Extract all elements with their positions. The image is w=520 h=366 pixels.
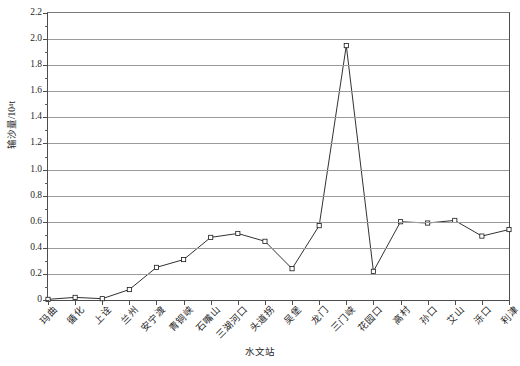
y-axis-tick-mark — [43, 13, 48, 14]
horizontal-gridline — [48, 196, 509, 197]
horizontal-gridline — [48, 274, 509, 275]
horizontal-gridline — [48, 117, 509, 118]
y-axis-tick-labels: 00.20.40.60.81.01.21.41.61.82.02.2 — [14, 0, 42, 366]
data-point-marker — [371, 269, 375, 273]
y-axis-tick-label: 0.4 — [16, 242, 42, 252]
y-axis-minor-tick-mark — [45, 261, 48, 262]
horizontal-gridline — [48, 91, 509, 92]
data-point-marker — [127, 287, 131, 291]
y-axis-minor-tick-mark — [45, 209, 48, 210]
plot-area — [47, 12, 510, 301]
horizontal-gridline — [48, 222, 509, 223]
data-point-marker — [344, 44, 348, 48]
y-axis-tick-label: 2.0 — [16, 33, 42, 43]
data-point-marker — [507, 227, 511, 231]
data-point-marker — [73, 295, 77, 299]
data-point-marker — [209, 235, 213, 239]
horizontal-gridline — [48, 65, 509, 66]
y-axis-minor-tick-mark — [45, 26, 48, 27]
x-axis-tick-mark — [509, 300, 510, 305]
y-axis-minor-tick-mark — [45, 78, 48, 79]
y-axis-minor-tick-mark — [45, 104, 48, 105]
horizontal-gridline — [48, 170, 509, 171]
x-axis-title: 水文站 — [0, 346, 520, 359]
y-axis-tick-label: 0.8 — [16, 190, 42, 200]
data-point-marker — [290, 267, 294, 271]
series-line — [48, 46, 509, 300]
y-axis-tick-label: 1.6 — [16, 85, 42, 95]
y-axis-tick-label: 1.2 — [16, 137, 42, 147]
y-axis-tick-label: 2.2 — [16, 7, 42, 17]
y-axis-minor-tick-mark — [45, 157, 48, 158]
horizontal-gridline — [48, 143, 509, 144]
data-point-marker — [154, 265, 158, 269]
y-axis-minor-tick-mark — [45, 235, 48, 236]
horizontal-gridline — [48, 248, 509, 249]
y-axis-minor-tick-mark — [45, 130, 48, 131]
data-point-marker — [236, 231, 240, 235]
y-axis-tick-label: 0.6 — [16, 216, 42, 226]
sediment-transport-line-chart: 输沙量/10⁴t 00.20.40.60.81.01.21.41.61.82.0… — [0, 0, 520, 366]
data-point-marker — [317, 224, 321, 228]
y-axis-tick-label: 0 — [16, 294, 42, 304]
y-axis-tick-label: 1.0 — [16, 164, 42, 174]
horizontal-gridline — [48, 39, 509, 40]
y-axis-tick-label: 1.8 — [16, 59, 42, 69]
data-point-marker — [181, 257, 185, 261]
y-axis-tick-label: 0.2 — [16, 268, 42, 278]
series-layer — [48, 13, 509, 300]
x-axis-category-labels: 玛曲循化上诠兰州安宁渡青铜峡石嘴山三湖河口头道拐吴堡龙门三门峡花园口高村孙口艾山… — [47, 304, 508, 350]
data-point-marker — [263, 239, 267, 243]
y-axis-minor-tick-mark — [45, 52, 48, 53]
y-axis-minor-tick-mark — [45, 183, 48, 184]
y-axis-tick-label: 1.4 — [16, 111, 42, 121]
data-point-marker — [480, 234, 484, 238]
y-axis-minor-tick-mark — [45, 287, 48, 288]
